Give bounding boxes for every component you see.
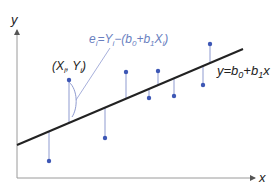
residual-brace [69,82,76,117]
data-point [124,70,128,74]
y-axis-label: y [10,12,19,27]
data-point [172,94,176,98]
regression-line [17,49,243,145]
x-axis-label: x [258,170,266,185]
data-point [47,159,51,163]
data-point [208,42,212,46]
point-label: (Xi, Yi) [52,59,86,75]
residual-formula: ei=Yi−(b0+b1Xi) [89,32,168,48]
data-point [147,96,151,100]
data-point [67,78,71,82]
regression-diagram: y x (Xi, Yi) ei=Yi−(b0+b1Xi) y=b0+b1x [0,0,278,194]
regression-equation-label: y=b0+b1x [216,63,270,80]
data-point [156,69,160,73]
data-point [103,136,107,140]
data-point [201,83,205,87]
